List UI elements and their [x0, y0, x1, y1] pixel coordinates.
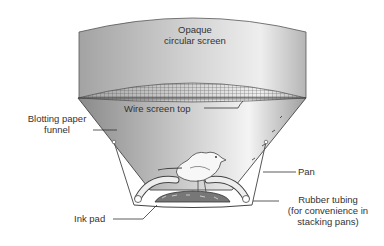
ink-pad	[155, 191, 230, 202]
funnel-cage-diagram: Opaque circular screen Wire screen top B…	[0, 0, 384, 246]
funnel-label-line2: funnel	[22, 124, 92, 135]
screen-label-line2: circular screen	[150, 35, 240, 46]
tubing-label-line1: Rubber tubing	[272, 194, 384, 205]
funnel-label: Blotting paper funnel	[22, 113, 92, 135]
wire-screen-label: Wire screen top	[124, 103, 191, 114]
screen-label: Opaque circular screen	[150, 24, 240, 46]
funnel-label-line1: Blotting paper	[22, 113, 92, 124]
tubing-label-line3: stacking pans)	[272, 216, 384, 227]
tubing-label: Rubber tubing (for convenience in stacki…	[272, 194, 384, 227]
screen-label-line1: Opaque	[150, 24, 240, 35]
ink-pad-label: Ink pad	[74, 213, 105, 224]
tubing-label-line2: (for convenience in	[272, 205, 384, 216]
pan-label: Pan	[298, 166, 315, 177]
